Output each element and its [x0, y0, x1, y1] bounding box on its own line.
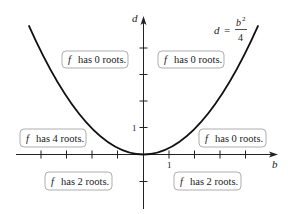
- svg-text:has 2 roots.: has 2 roots.: [61, 176, 109, 187]
- curve-equation: d = b 2 4: [214, 15, 247, 43]
- b-tick-label: 1: [167, 160, 172, 170]
- b-axis-label: b: [272, 158, 278, 170]
- svg-text:4: 4: [238, 32, 243, 43]
- region-label-four-roots: f has 4 roots.: [20, 129, 86, 147]
- svg-text:has 0 roots.: has 0 roots.: [174, 54, 222, 65]
- svg-text:has 4 roots.: has 4 roots.: [36, 133, 84, 144]
- d-axis-label: d: [132, 12, 138, 24]
- d-tick-label: 1: [132, 123, 137, 133]
- svg-text:2: 2: [242, 15, 246, 23]
- region-label-negative-left: f has 2 roots.: [45, 172, 112, 190]
- svg-text:has 2 roots.: has 2 roots.: [190, 176, 238, 187]
- svg-text:=: =: [224, 24, 230, 36]
- svg-text:has 0 roots.: has 0 roots.: [215, 133, 263, 144]
- svg-text:b: b: [236, 17, 241, 28]
- region-label-negative-right: f has 2 roots.: [174, 172, 241, 190]
- svg-text:d: d: [214, 24, 220, 36]
- svg-text:has 0 roots.: has 0 roots.: [78, 54, 126, 65]
- parabola-diagram: 1 1 b d d = b 2 4 f has 0 roots. f has 0…: [0, 0, 288, 214]
- region-label-upper-left: f has 0 roots.: [62, 51, 128, 68]
- region-label-upper-right: f has 0 roots.: [158, 51, 224, 68]
- region-label-lower-right-zero: f has 0 roots.: [199, 129, 266, 147]
